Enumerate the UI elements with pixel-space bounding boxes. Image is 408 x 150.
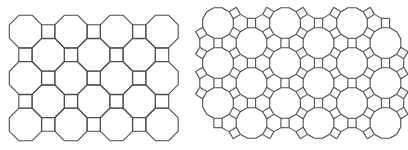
dodecagon-shape <box>236 108 267 139</box>
octagon-shape <box>78 39 110 71</box>
dodecagon-shape <box>203 48 234 79</box>
square-edge <box>229 7 236 11</box>
octagon-shape <box>123 85 155 117</box>
square-shape <box>110 95 123 108</box>
left-panel-truncated-square-tiling <box>9 15 178 140</box>
square-edge <box>233 107 240 111</box>
square-edge <box>367 54 374 58</box>
dodecagon-shape <box>270 48 301 79</box>
dodecagon-shape <box>303 108 334 139</box>
square-edge <box>363 127 370 131</box>
square-shape <box>42 25 55 38</box>
square-edge <box>401 47 408 51</box>
square-edge <box>267 34 274 38</box>
square-edge <box>263 134 270 138</box>
square-edge <box>401 74 408 78</box>
square-edge <box>363 87 370 91</box>
square-edge <box>196 94 203 98</box>
square-edge <box>263 94 270 98</box>
square-edge <box>296 34 303 38</box>
dodecagon-shape <box>270 8 301 39</box>
square-edge <box>263 107 270 111</box>
square-edge <box>229 114 236 118</box>
octagon-shape <box>78 85 110 117</box>
square-edge <box>200 34 207 38</box>
square-edge <box>363 34 370 38</box>
square-edge <box>300 94 307 98</box>
square-edge <box>330 14 337 18</box>
square-shape <box>133 25 146 38</box>
square-edge <box>404 92 408 99</box>
square-edge <box>330 67 337 71</box>
square-edge <box>196 72 200 79</box>
square-shape <box>19 95 32 108</box>
square-edge <box>334 127 341 131</box>
square-edge <box>263 67 270 71</box>
square-shape <box>110 48 123 61</box>
square-edge <box>263 27 270 31</box>
square-edge <box>229 34 236 38</box>
hexagon-edge <box>222 128 229 132</box>
square-edge <box>330 54 337 58</box>
square-edge <box>236 7 240 14</box>
dodecagon-shape <box>236 68 267 99</box>
square-edge <box>300 27 307 31</box>
square-edge <box>300 14 307 18</box>
dodecagon-shape <box>370 68 401 99</box>
square-edge <box>267 87 274 91</box>
square-edge <box>334 7 341 11</box>
square-edge <box>263 7 267 14</box>
square-edge <box>229 127 236 131</box>
square-edge <box>330 134 337 138</box>
square-edge <box>233 94 240 98</box>
square-edge <box>270 132 274 139</box>
square-edge <box>229 132 233 139</box>
square-edge <box>404 67 408 74</box>
hexagon-edge <box>374 14 381 18</box>
square-edge <box>363 47 370 51</box>
square-edge <box>334 74 341 78</box>
square-edge <box>330 107 337 111</box>
square-edge <box>196 47 200 54</box>
square-edge <box>397 107 404 111</box>
square-shape <box>64 48 77 61</box>
square-shape <box>87 71 100 84</box>
square-edge <box>401 114 408 118</box>
square-edge <box>300 107 307 111</box>
hexagon-edge <box>255 14 262 18</box>
square-edge <box>296 74 303 78</box>
square-edge <box>367 94 374 98</box>
square-edge <box>196 54 203 58</box>
square-edge <box>370 7 374 14</box>
square-edge <box>397 67 404 71</box>
square-edge <box>196 67 203 71</box>
square-edge <box>300 134 307 138</box>
hexagon-edge <box>307 14 314 18</box>
dodecagon-shape <box>270 88 301 119</box>
dodecagon-shape <box>337 8 368 39</box>
square-edge <box>229 87 236 91</box>
square-edge <box>367 14 374 18</box>
square-edge <box>200 47 207 51</box>
square-shape <box>155 48 168 61</box>
square-edge <box>196 27 203 31</box>
dodecagon-shape <box>203 88 234 119</box>
square-edge <box>404 107 408 114</box>
hexagon-edge <box>356 128 363 132</box>
square-shape <box>155 95 168 108</box>
square-edge <box>363 114 370 118</box>
dodecagon-shape <box>303 68 334 99</box>
square-shape <box>19 48 32 61</box>
octagon-shape <box>123 39 155 71</box>
square-edge <box>233 14 240 18</box>
dodecagon-shape <box>370 108 401 139</box>
square-shape <box>42 71 55 84</box>
square-edge <box>367 134 374 138</box>
square-edge <box>401 87 408 91</box>
square-edge <box>267 127 274 131</box>
square-edge <box>263 54 270 58</box>
right-panel-truncated-trihexagonal-tiling <box>196 7 408 138</box>
square-edge <box>330 7 334 14</box>
square-edge <box>296 127 303 131</box>
square-edge <box>337 132 341 139</box>
